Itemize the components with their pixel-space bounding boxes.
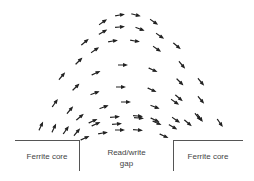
field-arrow-icon bbox=[71, 82, 81, 92]
field-arrow-icon bbox=[115, 12, 126, 18]
field-arrow-icon bbox=[80, 37, 90, 46]
field-arrow-icon bbox=[98, 130, 109, 136]
field-arrow-icon bbox=[171, 115, 181, 124]
field-arrow-icon bbox=[75, 112, 85, 121]
field-arrow-icon bbox=[183, 118, 193, 127]
field-arrow-icon bbox=[159, 132, 170, 140]
field-arrow-icon bbox=[177, 60, 186, 70]
field-arrow-icon bbox=[115, 128, 125, 132]
field-arrow-icon bbox=[90, 89, 101, 96]
field-arrow-icon bbox=[57, 71, 66, 81]
field-arrow-icon bbox=[90, 45, 100, 54]
field-arrow-icon bbox=[98, 28, 109, 36]
field-arrow-icon bbox=[98, 17, 108, 26]
field-arrow-icon bbox=[108, 38, 119, 44]
field-arrow-icon bbox=[131, 12, 142, 18]
gap-label-line2: gap bbox=[80, 159, 173, 169]
right-core-label: Ferrite core bbox=[174, 152, 242, 162]
field-arrow-icon bbox=[99, 103, 110, 110]
field-arrow-icon bbox=[175, 77, 185, 87]
field-arrow-icon bbox=[61, 125, 70, 135]
field-arrow-icon bbox=[72, 127, 81, 137]
field-arrow-icon bbox=[172, 41, 182, 50]
field-arrow-icon bbox=[37, 121, 45, 132]
field-arrow-icon bbox=[80, 134, 91, 142]
field-arrow-icon bbox=[168, 123, 179, 131]
field-arrow-icon bbox=[135, 25, 146, 32]
field-arrow-icon bbox=[115, 25, 125, 30]
field-arrow-icon bbox=[116, 85, 126, 89]
left-core-top-edge bbox=[15, 140, 79, 141]
field-arrow-icon bbox=[196, 77, 205, 87]
field-arrow-icon bbox=[50, 98, 59, 108]
field-arrow-icon bbox=[147, 86, 158, 94]
field-arrow-icon bbox=[50, 123, 58, 134]
field-arrow-icon bbox=[150, 103, 161, 110]
gap-label-line1: Read/write bbox=[80, 148, 173, 158]
field-arrow-icon bbox=[195, 113, 204, 123]
field-arrow-icon bbox=[74, 56, 84, 66]
field-arrow-icon bbox=[130, 38, 141, 44]
left-core-label: Ferrite core bbox=[15, 152, 79, 162]
field-arrow-icon bbox=[148, 66, 159, 74]
magnetic-field-diagram: Ferrite core Read/write gap Ferrite core bbox=[0, 0, 254, 181]
field-arrow-icon bbox=[152, 44, 162, 53]
field-arrow-icon bbox=[110, 115, 120, 120]
field-arrow-icon bbox=[215, 118, 224, 128]
field-arrow-icon bbox=[91, 69, 102, 77]
right-core-top-edge bbox=[173, 140, 243, 141]
field-arrow-icon bbox=[149, 17, 159, 26]
field-arrow-icon bbox=[196, 95, 205, 105]
field-arrow-icon bbox=[65, 105, 74, 115]
field-arrow-icon bbox=[152, 119, 163, 127]
field-arrow-icon bbox=[112, 122, 122, 127]
field-arrow-icon bbox=[133, 128, 143, 133]
field-arrow-icon bbox=[134, 116, 144, 121]
field-arrow-icon bbox=[118, 63, 128, 67]
field-arrow-icon bbox=[121, 100, 131, 104]
field-arrow-icon bbox=[155, 31, 165, 40]
